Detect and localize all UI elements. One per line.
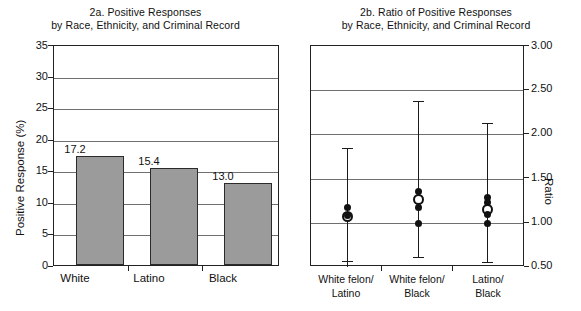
- chart-2b-xtick-mark: [381, 266, 382, 271]
- chart-2a-ytick-label-35: 35: [26, 40, 48, 51]
- chart-2b-xcat-latino-black: Latino/ Black: [452, 272, 524, 300]
- chart-2b-ytick-label-300: 3.00: [531, 40, 565, 51]
- chart-2a-ytick-mark: [48, 266, 53, 267]
- chart-2b-title-line2: by Race, Ethnicity, and Criminal Record: [291, 19, 581, 32]
- data-point-group1-a: [344, 204, 351, 211]
- chart-2a-ytick-label-15: 15: [26, 165, 48, 176]
- chart-2b-xcat-1-line1: White felon/: [318, 273, 373, 285]
- chart-2a-ytick-label-5: 5: [26, 228, 48, 239]
- chart-2b-ytick-label-200: 2.00: [531, 127, 565, 138]
- chart-2b-ytick-mark: [524, 89, 529, 90]
- data-point-group3-d: [484, 220, 491, 227]
- chart-2a-xtick-mark: [128, 266, 129, 271]
- chart-2b-title-line1: 2b. Ratio of Positive Responses: [291, 6, 581, 19]
- chart-2b-xcat-2-line1: White felon/: [389, 273, 444, 285]
- data-point-group1-b: [344, 212, 351, 219]
- chart-2a-gridline: [54, 78, 278, 79]
- bar-value-black: 13.0: [199, 170, 247, 182]
- bar-white: [76, 156, 124, 265]
- errorbar-cap-bottom-group3: [482, 262, 493, 263]
- chart-2b-gridline: [311, 179, 523, 180]
- chart-2a-gridline: [54, 109, 278, 110]
- chart-2a-xcat-white: White: [51, 272, 99, 284]
- chart-2a-title: 2a. Positive Responses by Race, Ethnicit…: [0, 6, 291, 32]
- chart-2b-ytick-label-250: 2.50: [531, 83, 565, 94]
- chart-2b-xcat-2-line2: Black: [381, 286, 453, 300]
- panel-2b: 2b. Ratio of Positive Responses by Race,…: [291, 0, 581, 311]
- chart-2b-ytick-mark: [524, 177, 529, 178]
- chart-2b-xcat-white-felon-black: White felon/ Black: [381, 272, 453, 300]
- bar-black: [224, 183, 272, 265]
- chart-2b-ytick-label-150: 1.50: [531, 172, 565, 183]
- errorbar-line-group3: [487, 123, 488, 263]
- errorbar-cap-bottom-group2: [413, 257, 424, 258]
- chart-2b-title: 2b. Ratio of Positive Responses by Race,…: [291, 6, 581, 32]
- chart-2b-xcat-3-line2: Black: [452, 286, 524, 300]
- data-point-group2-b: [415, 204, 422, 211]
- chart-2b-ytick-label-050: 0.50: [531, 260, 565, 271]
- chart-2a-xcat-black: Black: [199, 272, 247, 284]
- chart-2b-xcat-white-felon-latino: White felon/ Latino: [310, 272, 382, 300]
- chart-2a-ytick-label-20: 20: [26, 134, 48, 145]
- errorbar-cap-top-group2: [413, 101, 424, 102]
- chart-2b-xcat-3-line1: Latino/: [472, 273, 504, 285]
- chart-2b-ytick-label-100: 1.00: [531, 216, 565, 227]
- figure-container: 2a. Positive Responses by Race, Ethnicit…: [0, 0, 581, 311]
- chart-2b-xcat-1-line2: Latino: [310, 286, 382, 300]
- chart-2b-ytick-mark: [524, 45, 529, 46]
- chart-2b-ytick-mark: [524, 266, 529, 267]
- chart-2a-ytick-label-0: 0: [26, 260, 48, 271]
- chart-2b-xtick-mark: [452, 266, 453, 271]
- data-point-group3-c: [484, 211, 491, 218]
- chart-2a-xtick-mark: [202, 266, 203, 271]
- data-point-group2-c: [415, 220, 422, 227]
- chart-2a-y-axis-title: Positive Response (%): [14, 120, 26, 236]
- errorbar-cap-top-group3: [482, 123, 493, 124]
- chart-2b-gridline: [311, 90, 523, 91]
- panel-2a: 2a. Positive Responses by Race, Ethnicit…: [0, 0, 291, 311]
- chart-2b-ytick-mark: [524, 133, 529, 134]
- chart-2b-ytick-mark: [524, 222, 529, 223]
- chart-2a-xcat-latino: Latino: [125, 272, 173, 284]
- bar-value-latino: 15.4: [125, 155, 173, 167]
- chart-2a-ytick-label-25: 25: [26, 102, 48, 113]
- chart-2a-gridline: [54, 141, 278, 142]
- errorbar-cap-bottom-group1: [342, 261, 353, 262]
- bar-latino: [150, 168, 198, 265]
- chart-2a-ytick-label-10: 10: [26, 197, 48, 208]
- chart-2a-ytick-label-30: 30: [26, 71, 48, 82]
- errorbar-line-group2: [418, 101, 419, 258]
- errorbar-cap-top-group1: [342, 148, 353, 149]
- chart-2a-title-line1: 2a. Positive Responses: [0, 6, 291, 19]
- chart-2b-gridline: [311, 134, 523, 135]
- chart-2a-title-line2: by Race, Ethnicity, and Criminal Record: [0, 19, 291, 32]
- chart-2b-plot-area: [310, 45, 524, 266]
- bar-value-white: 17.2: [51, 143, 99, 155]
